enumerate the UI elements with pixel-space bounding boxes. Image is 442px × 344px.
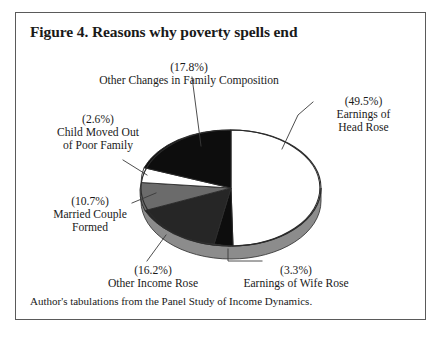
pie-label-married-name-2: Formed: [24, 221, 156, 234]
pie-label-married-couple-formed: (10.7%) Married Couple Formed: [24, 195, 156, 235]
pie-label-child-moved-name-1: Child Moved Out: [28, 126, 168, 139]
figure-frame: Figure 4. Reasons why poverty spells end: [15, 12, 426, 320]
pie-label-head-rose-pct: (49.5%): [306, 95, 421, 108]
pie-label-other-income-name: Other Income Rose: [88, 277, 218, 290]
leader-line-child-moved: [123, 160, 147, 175]
pie-label-child-moved-name-2: of Poor Family: [28, 139, 168, 152]
pie-label-child-moved-out: (2.6%) Child Moved Out of Poor Family: [28, 113, 168, 153]
pie-label-other-changes-family: (17.8%) Other Changes in Family Composit…: [64, 61, 314, 87]
pie-chart: (17.8%) Other Changes in Family Composit…: [16, 43, 425, 291]
pie-label-head-rose-name-1: Earnings of: [306, 108, 421, 121]
pie-label-other-changes-pct: (17.8%): [64, 61, 314, 74]
pie-label-earnings-head-rose: (49.5%) Earnings of Head Rose: [306, 95, 421, 135]
figure-source-note: Author's tabulations from the Panel Stud…: [30, 295, 312, 307]
pie-label-other-income-rose: (16.2%) Other Income Rose: [88, 264, 218, 290]
pie-label-head-rose-name-2: Head Rose: [306, 121, 421, 134]
pie-label-earnings-wife-rose: (3.3%) Earnings of Wife Rose: [221, 264, 371, 290]
pie-label-other-income-pct: (16.2%): [88, 264, 218, 277]
leader-line-other-income: [147, 235, 166, 261]
pie-label-child-moved-pct: (2.6%): [28, 113, 168, 126]
pie-label-other-changes-name: Other Changes in Family Composition: [64, 74, 314, 87]
pie-label-married-pct: (10.7%): [24, 195, 156, 208]
pie-label-wife-rose-name: Earnings of Wife Rose: [221, 277, 371, 290]
figure-title: Figure 4. Reasons why poverty spells end: [30, 23, 297, 41]
pie-label-wife-rose-pct: (3.3%): [221, 264, 371, 277]
pie-label-married-name-1: Married Couple: [24, 208, 156, 221]
